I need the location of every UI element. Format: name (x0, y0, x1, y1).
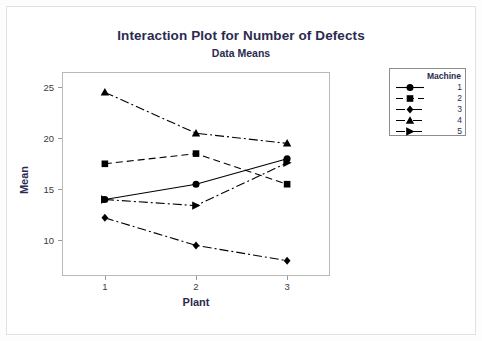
data-point-machine-4 (192, 129, 200, 137)
data-point-machine-4 (101, 88, 109, 96)
y-axis-tick-mark (58, 189, 62, 190)
y-axis-tick-label: 25 (14, 82, 54, 93)
x-axis-tick-mark (196, 276, 197, 280)
y-axis-tick-mark (58, 240, 62, 241)
legend-entry-machine-3[interactable]: 3 (390, 104, 467, 115)
legend-label-machine-1: 1 (457, 82, 462, 92)
legend-marker-machine-2 (407, 95, 414, 102)
x-axis-tick-mark (105, 276, 106, 280)
x-axis-tick-label: 2 (176, 281, 216, 292)
series-machine-4 (101, 88, 292, 147)
chart-title: Interaction Plot for Number of Defects (0, 28, 482, 43)
legend-label-machine-3: 3 (457, 104, 462, 114)
legend-title: Machine (427, 71, 461, 81)
chart-figure: Interaction Plot for Number of Defects D… (0, 0, 482, 341)
legend-swatch-machine-4 (394, 115, 432, 126)
x-axis-label: Plant (62, 296, 330, 308)
legend-entry-machine-2[interactable]: 2 (390, 93, 467, 104)
series-machine-3 (101, 214, 290, 265)
data-point-machine-3 (284, 257, 291, 265)
legend-box: Machine 12345 (389, 68, 466, 136)
y-axis-tick-mark (58, 138, 62, 139)
data-point-machine-5 (192, 201, 200, 209)
legend-marker-machine-4 (406, 116, 414, 124)
y-axis-tick-mark (58, 87, 62, 88)
legend-swatch-machine-3 (394, 104, 432, 115)
data-point-machine-3 (193, 241, 200, 249)
legend-marker-machine-3 (407, 106, 414, 114)
data-point-machine-2 (284, 181, 291, 188)
chart-subtitle: Data Means (0, 47, 482, 59)
x-axis-tick-mark (287, 276, 288, 280)
legend-entry-machine-5[interactable]: 5 (390, 126, 467, 137)
data-point-machine-2 (102, 161, 109, 168)
series-machine-1 (101, 155, 290, 203)
legend-entry-machine-4[interactable]: 4 (390, 115, 467, 126)
legend-swatch-machine-1 (394, 82, 432, 93)
x-axis-tick-label: 3 (267, 281, 307, 292)
legend-label-machine-2: 2 (457, 93, 462, 103)
series-line-machine-2 (105, 154, 287, 185)
x-axis-tick-label: 1 (85, 281, 125, 292)
data-point-machine-2 (193, 150, 200, 157)
plot-series-canvas (62, 72, 330, 276)
legend-label-machine-5: 5 (457, 126, 462, 136)
data-point-machine-3 (101, 214, 108, 222)
series-line-machine-3 (105, 218, 287, 261)
legend-marker-machine-5 (406, 127, 414, 135)
legend-swatch-machine-5 (394, 126, 432, 137)
legend-swatch-machine-2 (394, 93, 432, 104)
legend-label-machine-4: 4 (457, 115, 462, 125)
series-line-machine-1 (105, 159, 287, 200)
y-axis-label: Mean (18, 140, 30, 220)
legend-marker-machine-1 (407, 84, 414, 91)
data-point-machine-1 (193, 181, 200, 188)
legend-entry-machine-1[interactable]: 1 (390, 82, 467, 93)
y-axis-tick-label: 10 (14, 235, 54, 246)
